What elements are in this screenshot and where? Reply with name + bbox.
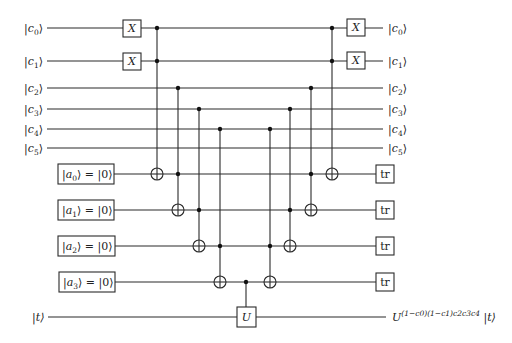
trace-gate-a0: tr: [376, 165, 394, 183]
output-label-c5: |c5⟩: [388, 142, 407, 157]
control-dot-icon: [218, 244, 222, 248]
oplus-icon: [151, 168, 163, 180]
svg-text:|a2⟩ = |0⟩: |a2⟩ = |0⟩: [62, 240, 113, 255]
control-dot-icon: [268, 127, 272, 131]
output-label-c3: |c3⟩: [388, 103, 407, 118]
control-dot-icon: [155, 26, 159, 30]
control-dot-icon: [309, 86, 313, 90]
ancilla-init-a1: |a1⟩ = |0⟩: [58, 200, 114, 220]
trace-gate-a2: tr: [376, 237, 394, 255]
input-label-c2: |c2⟩: [24, 82, 43, 97]
ancilla-init-a2: |a2⟩ = |0⟩: [58, 236, 115, 256]
output-labels: |c0⟩ |c1⟩ |c2⟩ |c3⟩ |c4⟩ |c5⟩ U(1−c0)(1−…: [388, 22, 496, 325]
trace-gate-a1: tr: [376, 201, 394, 219]
input-label-c1: |c1⟩: [24, 55, 43, 70]
trace-gate-a3: tr: [376, 273, 394, 291]
input-label-c3: |c3⟩: [24, 103, 43, 118]
output-label-c0: |c0⟩: [388, 22, 407, 37]
svg-text:tr: tr: [380, 240, 390, 253]
control-dot-icon: [197, 208, 201, 212]
oplus-icon: [305, 204, 317, 216]
control-dot-icon: [330, 59, 334, 63]
control-dot-icon: [176, 86, 180, 90]
output-label-c1: |c1⟩: [388, 55, 407, 70]
input-labels: |c0⟩ |c1⟩ |c2⟩ |c3⟩ |c4⟩ |c5⟩ |t⟩: [24, 22, 44, 325]
output-label-c4: |c4⟩: [388, 123, 407, 138]
ancilla-init-a3: |a3⟩ = |0⟩: [59, 272, 115, 292]
control-dot-icon: [268, 244, 272, 248]
svg-text:tr: tr: [380, 168, 390, 181]
oplus-icon: [284, 240, 296, 252]
svg-text:tr: tr: [380, 276, 390, 289]
oplus-icon: [264, 276, 276, 288]
oplus-icon: [214, 276, 226, 288]
svg-text:U: U: [242, 311, 252, 324]
svg-text:|a3⟩ = |0⟩: |a3⟩ = |0⟩: [63, 276, 114, 291]
x-gate-c0-left: X: [123, 20, 141, 37]
input-label-c0: |c0⟩: [24, 22, 43, 37]
control-dot-icon: [309, 172, 313, 176]
svg-text:X: X: [127, 55, 137, 68]
x-gate-c1-right: X: [347, 52, 365, 69]
control-dot-icon: [288, 208, 292, 212]
control-dot-icon: [288, 107, 292, 111]
control-dot-icon: [330, 26, 334, 30]
oplus-icon: [193, 240, 205, 252]
oplus-icon: [326, 168, 338, 180]
svg-text:X: X: [351, 21, 361, 34]
control-dots: [155, 26, 334, 284]
input-label-t: |t⟩: [32, 311, 44, 325]
output-label-c2: |c2⟩: [388, 82, 407, 97]
oplus-icon: [172, 204, 184, 216]
svg-text:X: X: [127, 22, 137, 35]
input-label-c5: |c5⟩: [24, 142, 43, 157]
ancilla-init-a0: |a0⟩ = |0⟩: [58, 164, 114, 184]
x-gate-c0-right: X: [347, 19, 365, 36]
control-dot-icon: [176, 172, 180, 176]
input-label-c4: |c4⟩: [24, 123, 43, 138]
control-dot-icon: [218, 127, 222, 131]
control-dot-icon: [244, 280, 248, 284]
svg-text:X: X: [351, 54, 361, 67]
control-dot-icon: [155, 59, 159, 63]
svg-text:tr: tr: [380, 204, 390, 217]
cnot-targets: [151, 168, 338, 288]
svg-text:|a0⟩ = |0⟩: |a0⟩ = |0⟩: [62, 168, 113, 183]
control-dot-icon: [197, 107, 201, 111]
x-gate-c1-left: X: [123, 53, 141, 70]
svg-text:|a1⟩ = |0⟩: |a1⟩ = |0⟩: [62, 204, 113, 219]
u-gate: U: [237, 307, 256, 327]
output-label-t: U(1−c0)(1−c1)c2c3c4 |t⟩: [392, 309, 496, 325]
quantum-circuit-diagram: X X X X U tr tr tr tr |a0⟩ = |0⟩ |a1⟩: [0, 0, 512, 343]
